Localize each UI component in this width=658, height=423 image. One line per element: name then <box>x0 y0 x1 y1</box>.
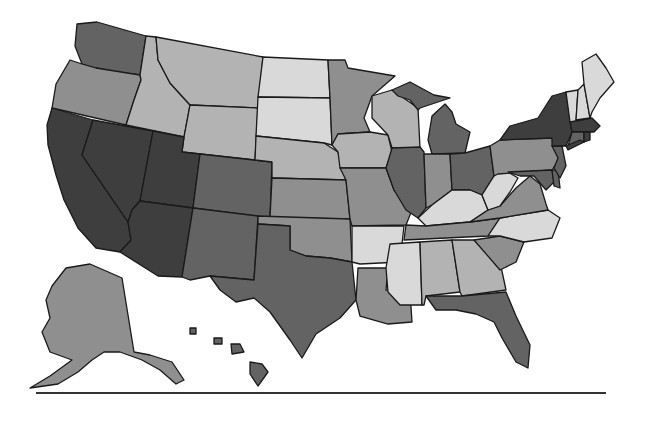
state-RI <box>584 132 590 142</box>
state-FL <box>426 292 530 368</box>
state-AZ <box>120 201 193 277</box>
state-AK <box>30 264 184 388</box>
state-MI-lp <box>428 104 470 154</box>
state-HI-3 <box>231 344 244 354</box>
state-HI-4 <box>250 362 268 386</box>
state-ND <box>258 57 330 98</box>
state-KS <box>270 178 350 219</box>
state-HI-2 <box>214 338 222 344</box>
state-MS <box>386 242 422 305</box>
state-HI-1 <box>190 328 196 334</box>
us-choropleth-map <box>0 0 658 423</box>
state-NM <box>182 208 258 280</box>
state-NY <box>500 92 572 146</box>
horizontal-rule <box>36 392 606 394</box>
state-IA <box>332 132 392 168</box>
state-CO <box>193 154 272 218</box>
state-WY <box>182 105 258 160</box>
